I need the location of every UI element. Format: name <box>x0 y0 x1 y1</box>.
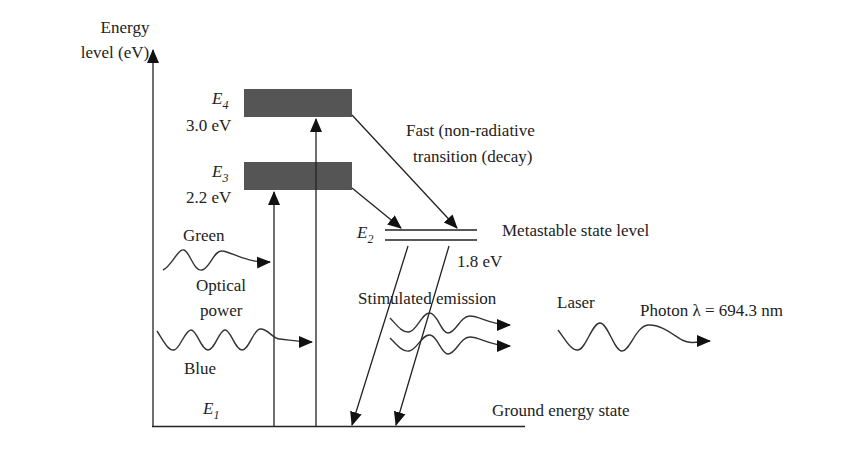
photon-wavelength-label: Photon λ = 694.3 nm <box>640 301 783 320</box>
e2-energy: 1.8 eV <box>457 252 503 271</box>
e3-label: E3 <box>211 162 228 185</box>
e4-band <box>244 89 352 117</box>
axis-label-line2: level (eV) <box>81 43 149 62</box>
emission-arrow-2 <box>396 246 449 425</box>
emission-arrow-1 <box>352 246 408 425</box>
laser-photon-wave-icon <box>558 323 710 351</box>
diagram-canvas: Energy level (eV) E4 3.0 eV E3 2.2 eV Fa… <box>0 0 862 449</box>
blue-wave-icon <box>157 329 312 350</box>
axis-label-line1: Energy <box>101 18 150 37</box>
e3-band <box>244 162 352 190</box>
green-wave-icon <box>163 250 270 270</box>
stimulated-wave-1-icon <box>390 313 510 333</box>
e2-label: E2 <box>356 223 373 246</box>
e1-label: E1 <box>202 399 219 422</box>
stimulated-emission-label: Stimulated emission <box>358 289 497 308</box>
e4-label: E4 <box>211 89 228 112</box>
metastable-label: Metastable state level <box>502 221 650 240</box>
e3-energy: 2.2 eV <box>186 188 232 207</box>
e4-energy: 3.0 eV <box>186 116 232 135</box>
green-label: Green <box>183 226 225 245</box>
optical-label-line2: power <box>200 301 243 320</box>
stimulated-wave-2-icon <box>390 335 510 354</box>
fast-decay-label-line2: transition (decay) <box>413 147 532 166</box>
ground-state-label: Ground energy state <box>492 401 630 420</box>
laser-label: Laser <box>557 293 595 312</box>
optical-label-line1: Optical <box>196 276 246 295</box>
blue-label: Blue <box>184 359 216 378</box>
laser-energy-level-diagram: Energy level (eV) E4 3.0 eV E3 2.2 eV Fa… <box>0 0 862 449</box>
decay-arrow-e3 <box>352 188 401 228</box>
fast-decay-label-line1: Fast (non-radiative <box>406 121 535 140</box>
